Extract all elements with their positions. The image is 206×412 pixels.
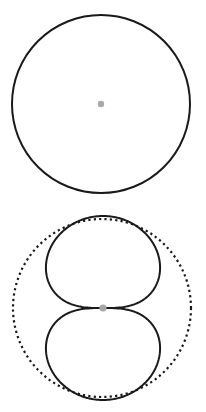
figure-eight-center-dot (99, 304, 106, 311)
omni-center-dot (98, 101, 104, 107)
polar-pattern-diagram (0, 0, 206, 412)
